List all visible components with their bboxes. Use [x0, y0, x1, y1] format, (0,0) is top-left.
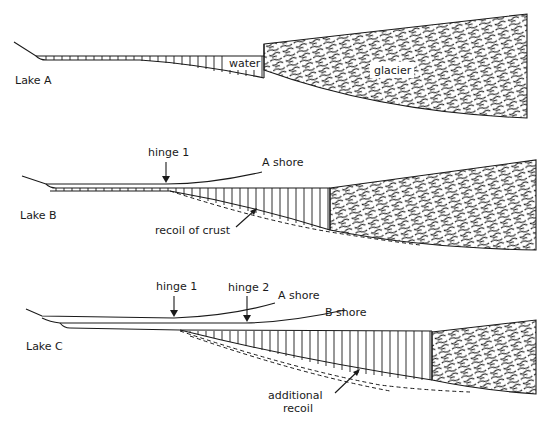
a-shore-label-c: A shore	[278, 289, 320, 302]
a-shore-label: A shore	[262, 156, 304, 169]
additional-label: additional	[268, 389, 323, 402]
glacier-c	[432, 320, 536, 394]
lake-b-label: Lake B	[20, 209, 57, 222]
hinge-1-label: hinge 1	[148, 146, 189, 159]
water-hatching-c	[190, 331, 430, 380]
panel-lake-c: hinge 1 hinge 2 A shore B shore Lake C a…	[26, 280, 536, 415]
b-shore-label: B shore	[325, 306, 367, 319]
panel-lake-b: hinge 1 A shore Lake B recoil of crust	[20, 146, 536, 250]
panel-lake-a: water glacier Lake A	[14, 14, 527, 118]
hinge-2-label: hinge 2	[228, 281, 269, 294]
water-label: water	[229, 57, 261, 70]
glacial-lake-diagram: water glacier Lake A hinge 1 A shore Lak…	[0, 0, 552, 425]
recoil-label: recoil	[283, 402, 313, 415]
lake-c-label: Lake C	[26, 340, 63, 353]
lake-a-label: Lake A	[15, 74, 52, 87]
recoil-of-crust-label: recoil of crust	[155, 224, 231, 237]
hinge-1-label-c: hinge 1	[156, 280, 197, 293]
glacier-label: glacier	[374, 64, 412, 77]
